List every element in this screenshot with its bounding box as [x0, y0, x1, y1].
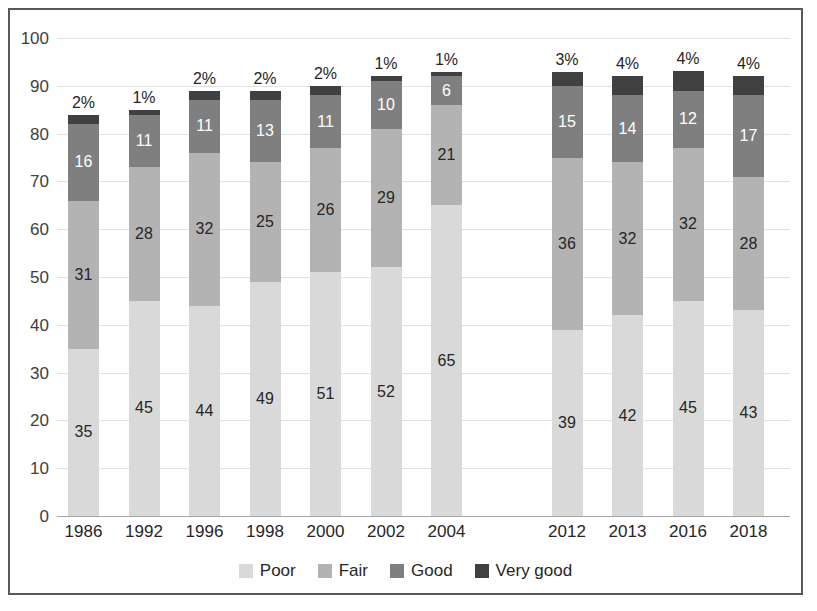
legend-swatch-icon [390, 564, 404, 578]
x-axis-tick-1996: 1996 [186, 523, 224, 540]
legend-label: Good [411, 562, 453, 579]
bar-segment-1992-poor[interactable]: 45 [129, 301, 160, 516]
bar-segment-2000-very-good[interactable] [310, 86, 341, 96]
bar-group-2002[interactable]: 5229101%2002 [371, 76, 402, 516]
bar-segment-2004-good[interactable]: 6 [431, 76, 462, 105]
bar-top-label-1998: 2% [253, 71, 276, 87]
bar-segment-2002-fair[interactable]: 29 [371, 129, 402, 268]
bar-segment-2004-fair[interactable]: 21 [431, 105, 462, 205]
bar-segment-2013-good[interactable]: 14 [612, 95, 643, 162]
legend-item-very-good[interactable]: Very good [475, 562, 573, 579]
bar-segment-1986-good[interactable]: 16 [68, 124, 99, 200]
bar-segment-2016-very-good[interactable] [673, 71, 704, 90]
bar-segment-2018-good[interactable]: 17 [733, 95, 764, 176]
x-axis-tick-2012: 2012 [548, 523, 586, 540]
bar-segment-1998-good[interactable]: 13 [250, 100, 281, 162]
bar-top-label-2004: 1% [435, 52, 458, 68]
bar-segment-value: 17 [740, 128, 758, 144]
y-axis-tick-90: 90 [30, 77, 49, 94]
bar-top-label-1992: 1% [132, 90, 155, 106]
bar-segment-value: 32 [196, 221, 214, 237]
bar-top-label-2013: 4% [616, 56, 639, 72]
legend-label: Fair [339, 562, 368, 579]
bar-segment-1986-poor[interactable]: 35 [68, 349, 99, 516]
bar-segment-2018-fair[interactable]: 28 [733, 177, 764, 311]
bar-segment-value: 45 [679, 400, 697, 416]
bar-segment-2013-poor[interactable]: 42 [612, 315, 643, 516]
bar-segment-1998-fair[interactable]: 25 [250, 162, 281, 282]
bar-segment-2016-poor[interactable]: 45 [673, 301, 704, 516]
bar-segment-value: 36 [558, 236, 576, 252]
x-axis-tick-1992: 1992 [125, 523, 163, 540]
x-axis-tick-1998: 1998 [246, 523, 284, 540]
x-axis-tick-1986: 1986 [65, 523, 103, 540]
bar-segment-2002-poor[interactable]: 52 [371, 267, 402, 516]
bar-segment-value: 25 [256, 214, 274, 230]
legend-item-fair[interactable]: Fair [318, 562, 368, 579]
legend-swatch-icon [318, 564, 332, 578]
bar-group-2013[interactable]: 4232144%2013 [612, 76, 643, 516]
y-axis-tick-10: 10 [30, 460, 49, 477]
bar-segment-1992-fair[interactable]: 28 [129, 167, 160, 301]
bar-segment-2016-good[interactable]: 12 [673, 91, 704, 148]
bar-group-2018[interactable]: 4328174%2018 [733, 76, 764, 516]
bar-group-2012[interactable]: 3936153%2012 [552, 72, 583, 517]
bar-segment-2018-very-good[interactable] [733, 76, 764, 95]
bar-segment-2013-fair[interactable]: 32 [612, 162, 643, 315]
bar-group-2016[interactable]: 4532124%2016 [673, 71, 704, 516]
bar-top-label-2016: 4% [676, 51, 699, 67]
bar-segment-value: 14 [619, 121, 637, 137]
bar-segment-value: 45 [135, 400, 153, 416]
y-axis-tick-100: 100 [21, 30, 49, 47]
bar-segment-1996-poor[interactable]: 44 [189, 306, 220, 516]
bar-segment-2002-good[interactable]: 10 [371, 81, 402, 129]
bar-segment-value: 28 [135, 226, 153, 242]
bar-segment-1986-very-good[interactable] [68, 115, 99, 125]
bar-segment-2018-poor[interactable]: 43 [733, 310, 764, 516]
legend-label: Very good [496, 562, 573, 579]
bar-segment-2012-fair[interactable]: 36 [552, 158, 583, 330]
bar-segment-1998-poor[interactable]: 49 [250, 282, 281, 516]
bar-segment-2000-fair[interactable]: 26 [310, 148, 341, 272]
y-axis-tick-40: 40 [30, 316, 49, 333]
y-axis-tick-70: 70 [30, 173, 49, 190]
bar-segment-2012-poor[interactable]: 39 [552, 330, 583, 516]
bar-segment-2004-very-good[interactable] [431, 72, 462, 77]
plot-area: 1009080706050403020100 3531162%198645281… [57, 30, 790, 524]
bar-group-1998[interactable]: 4925132%1998 [250, 91, 281, 516]
bar-segment-1986-fair[interactable]: 31 [68, 201, 99, 349]
bar-segment-1992-good[interactable]: 11 [129, 115, 160, 168]
legend-item-poor[interactable]: Poor [239, 562, 296, 579]
bar-segment-1998-very-good[interactable] [250, 91, 281, 101]
bar-group-2004[interactable]: 652161%2004 [431, 72, 462, 517]
bar-segment-value: 29 [377, 190, 395, 206]
bar-segment-value: 52 [377, 384, 395, 400]
bar-group-1996[interactable]: 4432112%1996 [189, 91, 220, 516]
bar-segment-2002-very-good[interactable] [371, 76, 402, 81]
x-axis-tick-2013: 2013 [609, 523, 647, 540]
bar-segment-1996-fair[interactable]: 32 [189, 153, 220, 306]
bar-segment-2004-poor[interactable]: 65 [431, 205, 462, 516]
bar-group-1986[interactable]: 3531162%1986 [68, 115, 99, 516]
bar-top-label-1996: 2% [193, 71, 216, 87]
bar-segment-2012-good[interactable]: 15 [552, 86, 583, 158]
bar-top-label-1986: 2% [72, 95, 95, 111]
bar-segment-2000-good[interactable]: 11 [310, 95, 341, 148]
bar-segment-1996-good[interactable]: 11 [189, 100, 220, 153]
bar-segment-1996-very-good[interactable] [189, 91, 220, 101]
bar-group-1992[interactable]: 4528111%1992 [129, 110, 160, 516]
legend-item-good[interactable]: Good [390, 562, 453, 579]
bar-segment-2016-fair[interactable]: 32 [673, 148, 704, 301]
bar-segment-value: 15 [558, 114, 576, 130]
bar-segment-2000-poor[interactable]: 51 [310, 272, 341, 516]
y-axis-tick-60: 60 [30, 221, 49, 238]
gridline-0 [57, 516, 790, 517]
bar-segment-value: 32 [619, 231, 637, 247]
bar-segment-value: 21 [438, 147, 456, 163]
bar-segment-1992-very-good[interactable] [129, 110, 160, 115]
bar-segment-value: 11 [317, 114, 334, 130]
bar-segment-2013-very-good[interactable] [612, 76, 643, 95]
bar-segment-2012-very-good[interactable] [552, 72, 583, 86]
bar-group-2000[interactable]: 5126112%2000 [310, 86, 341, 516]
legend-swatch-icon [475, 564, 489, 578]
